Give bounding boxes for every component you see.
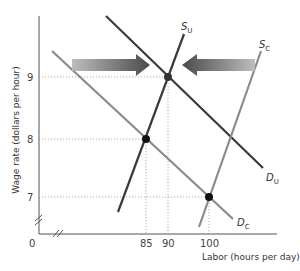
x-axis-title: Labor (hours per day) xyxy=(202,252,300,262)
label-su: SU xyxy=(181,21,192,35)
demand-shift-arrow-icon xyxy=(72,54,150,76)
y-tick-9: 9 xyxy=(27,72,33,83)
guide-lines xyxy=(39,77,209,234)
x-tick-85: 85 xyxy=(140,238,153,249)
label-du: DU xyxy=(266,172,279,186)
axes xyxy=(35,16,277,237)
equilibrium-point-85-8 xyxy=(142,135,150,143)
x-tick-origin: 0 xyxy=(29,238,35,249)
label-dc: DC xyxy=(237,217,250,231)
y-axis-title: Wage rate (dollars per hour) xyxy=(11,66,21,194)
y-tick-7: 7 xyxy=(27,192,33,203)
labor-market-chart: SU SC DU DC 9 8 7 0 85 90 100 Labor (hou… xyxy=(0,0,300,271)
y-tick-8: 8 xyxy=(27,134,33,145)
x-tick-90: 90 xyxy=(162,238,175,249)
demand-curve-competitive xyxy=(52,51,233,219)
supply-shift-arrow-icon xyxy=(182,54,255,76)
demand-curve-union xyxy=(106,16,263,168)
equilibrium-point-union xyxy=(164,73,172,81)
x-tick-100: 100 xyxy=(200,238,219,249)
equilibrium-point-competitive xyxy=(205,193,213,201)
